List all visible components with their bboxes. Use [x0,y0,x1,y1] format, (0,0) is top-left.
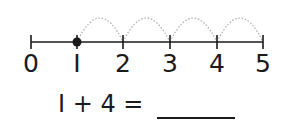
tick-label-4: 4 [205,51,229,76]
tick-label-2: 2 [111,51,135,76]
tick-label-5: 5 [251,51,275,76]
equation-text: I + 4 = [58,92,143,116]
start-point [73,38,82,47]
tick-label-0: 0 [19,51,43,76]
tick-label-3: 3 [158,51,182,76]
answer-blank[interactable] [157,117,235,119]
tick-label-1: I [65,51,89,76]
number-line [0,0,290,137]
